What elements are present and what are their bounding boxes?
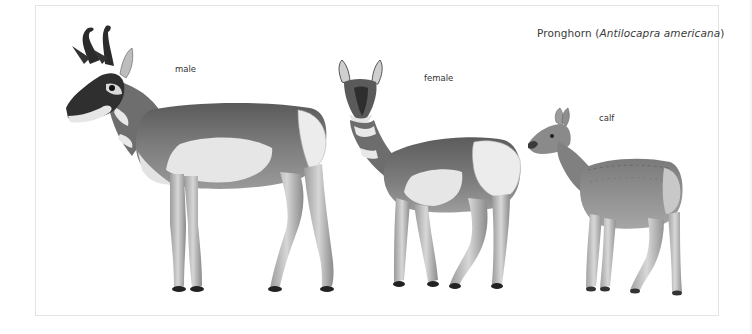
paren-close: )	[720, 27, 724, 39]
scientific-name: Antilocapra americana	[599, 27, 720, 39]
figure-title: Pronghorn (Antilocapra americana)	[537, 27, 725, 39]
female-pronghorn-illustration	[334, 58, 524, 296]
common-name: Pronghorn	[537, 27, 592, 39]
male-pronghorn-illustration	[60, 24, 345, 299]
calf-pronghorn-illustration	[524, 106, 694, 298]
